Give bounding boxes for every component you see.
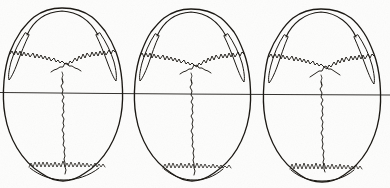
scan-grain-overlay [0, 0, 390, 188]
cranial-suture-plate: Line drawing of three human skulls seen … [0, 0, 390, 188]
